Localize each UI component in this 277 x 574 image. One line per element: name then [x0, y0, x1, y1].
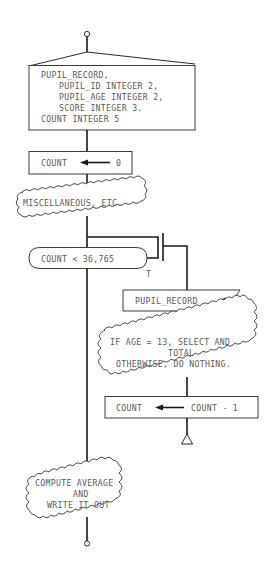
declaration-block: PUPIL_RECORD, PUPIL_ID INTEGER 2, PUPIL_…	[29, 52, 195, 130]
select-line-2: TOTAL	[168, 348, 194, 358]
declaration-line-1: PUPIL_RECORD,	[41, 70, 109, 80]
select-line-3: OTHERWISE, DO NOTHING.	[116, 359, 231, 369]
start-circle-icon	[84, 31, 89, 36]
loop-condition: COUNT < 36,765 T	[29, 248, 151, 280]
condition-text: COUNT < 36,765	[41, 254, 114, 264]
flowchart: PUPIL_RECORD, PUPIL_ID INTEGER 2, PUPIL_…	[0, 0, 277, 574]
init-count-block: COUNT 0	[29, 152, 132, 175]
final-line-1: COMPUTE AVERAGE	[35, 478, 113, 488]
decrement-block: COUNT COUNT - 1	[105, 397, 258, 419]
declaration-roof	[29, 52, 195, 66]
final-process-cloud: COMPUTE AVERAGE AND WRITE IT OUT	[26, 457, 122, 518]
declaration-line-3: PUPIL_AGE INTEGER 2,	[59, 92, 164, 102]
loop-end-triangle-icon	[182, 434, 193, 444]
final-line-2: AND	[73, 489, 89, 499]
final-line-3: WRITE IT OUT	[47, 500, 110, 510]
decrement-target: COUNT	[116, 403, 142, 413]
declaration-line-5: COUNT INTEGER 5	[41, 114, 119, 124]
loop-end	[182, 418, 193, 444]
end-connector	[84, 517, 89, 546]
declaration-line-4: SCORE INTEGER 3.	[59, 103, 143, 113]
misc-label: MISCELLANEOUS, ETC.	[23, 198, 122, 208]
loop-body-line	[163, 246, 187, 290]
decrement-expr: COUNT - 1	[191, 403, 238, 413]
init-target: COUNT	[41, 158, 67, 168]
end-circle-icon	[84, 541, 89, 546]
misc-process-cloud: MISCELLANEOUS, ETC.	[16, 176, 147, 217]
select-line-1: IF AGE = 13, SELECT AND	[110, 337, 230, 347]
declaration-line-2: PUPIL_ID INTEGER 2,	[59, 81, 158, 91]
true-label: T	[146, 269, 151, 279]
init-value: 0	[116, 158, 121, 168]
read-label: PUPIL_RECORD	[135, 296, 198, 306]
start-connector	[84, 31, 89, 52]
